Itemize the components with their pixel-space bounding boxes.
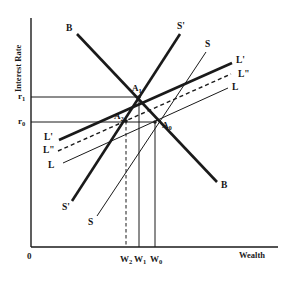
- y-axis-title: Interest Rate: [14, 45, 23, 92]
- point-marker-A0: [153, 120, 157, 124]
- curve-label-L-prime-right: L': [236, 56, 245, 66]
- x-tick-base: W: [120, 254, 129, 264]
- point-label-base: A: [114, 111, 121, 121]
- x-tick-subscript: 0: [159, 258, 162, 265]
- origin-label: 0: [27, 252, 32, 261]
- y-tick-label-r1: r1: [18, 92, 25, 101]
- curve-label-S-top: S: [205, 40, 210, 50]
- plot-canvas: [0, 0, 285, 283]
- curves-group: [58, 34, 232, 216]
- y-tick-subscript: 1: [22, 95, 25, 102]
- point-label-A0: A0: [162, 121, 172, 130]
- curve-label-L-prime-left: L': [44, 133, 53, 143]
- curve-label-L-left: L: [48, 161, 54, 171]
- curve-label-S-bottom: S: [88, 218, 93, 228]
- x-tick-label-W2: W2: [120, 255, 132, 264]
- x-tick-subscript: 1: [143, 258, 146, 265]
- curve-L: [63, 88, 228, 163]
- point-marker-A2: [124, 119, 128, 123]
- point-label-A1: A1: [132, 84, 142, 93]
- x-tick-base: W: [134, 254, 143, 264]
- curve-label-S-prime-bottom: S': [62, 203, 70, 213]
- curve-Lp: [58, 74, 231, 151]
- point-marker-A1: [137, 95, 141, 99]
- curve-label-L-dprime-right: L": [238, 70, 250, 80]
- point-label-subscript: 2: [121, 115, 124, 122]
- x-tick-label-W1: W1: [134, 255, 146, 264]
- curve-label-B-bottom: B: [221, 181, 227, 191]
- economics-diagram: Interest Rate Wealth 0 r1r0 W2W1W0 BBS'S…: [0, 0, 285, 283]
- curve-Lp: [59, 63, 232, 140]
- y-tick-subscript: 0: [22, 120, 25, 127]
- curve-label-L-dprime-left: L": [43, 146, 55, 156]
- point-label-subscript: 0: [169, 124, 172, 131]
- x-tick-label-W0: W0: [150, 255, 162, 264]
- point-label-subscript: 1: [139, 87, 142, 94]
- x-tick-base: W: [150, 254, 159, 264]
- point-label-A2: A2: [114, 112, 124, 121]
- point-label-base: A: [162, 120, 169, 130]
- x-tick-subscript: 2: [129, 258, 132, 265]
- curve-label-S-prime-top: S': [177, 22, 185, 32]
- curve-label-B-top: B: [66, 24, 72, 34]
- curve-label-L-right: L: [232, 83, 238, 93]
- point-label-base: A: [132, 83, 139, 93]
- x-axis-title: Wealth: [239, 251, 265, 260]
- y-tick-label-r0: r0: [18, 117, 25, 126]
